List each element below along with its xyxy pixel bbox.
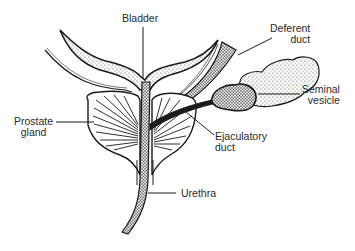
label-deferent-duct-line2: duct: [270, 34, 310, 45]
label-prostate-gland: Prostate gland: [14, 116, 53, 138]
label-seminal-vesicle-line2: vesicle: [302, 95, 340, 106]
label-bladder-text: Bladder: [122, 13, 158, 24]
label-seminal-vesicle: Seminal vesicle: [302, 84, 340, 106]
label-urethra-text: Urethra: [181, 188, 216, 199]
label-ejaculatory-duct-line2: duct: [215, 142, 267, 153]
label-ejaculatory-duct: Ejaculatory duct: [215, 131, 267, 153]
deferent-duct-leader-line: [238, 38, 272, 55]
label-bladder: Bladder: [122, 13, 158, 24]
label-urethra: Urethra: [181, 188, 216, 199]
label-deferent-duct: Deferent duct: [270, 23, 310, 45]
label-prostate-gland-line2: gland: [14, 127, 53, 138]
